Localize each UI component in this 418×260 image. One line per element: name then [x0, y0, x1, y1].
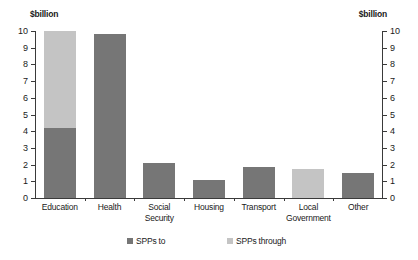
right-axis-tick-label: 0 [390, 194, 410, 203]
left-axis-tick-label: 1 [8, 177, 28, 186]
bars-layer [35, 31, 383, 198]
right-axis-tick [383, 198, 387, 199]
bar-group [94, 34, 126, 198]
bar-group [342, 173, 374, 198]
left-axis-tick-label: 5 [8, 111, 28, 120]
x-axis-tick [134, 198, 135, 201]
right-axis-tick-label: 4 [390, 127, 410, 136]
left-axis-tick-label: 8 [8, 60, 28, 69]
legend-label: SPPs through [236, 236, 286, 246]
right-axis-tick [383, 98, 387, 99]
bar-segment [342, 173, 374, 198]
category-label: Housing [184, 202, 234, 213]
right-axis-tick-label: 9 [390, 44, 410, 53]
left-axis-tick-label: 0 [8, 194, 28, 203]
category-label: Health [85, 202, 135, 213]
left-axis-tick-label: 9 [8, 44, 28, 53]
right-axis-tick [383, 148, 387, 149]
right-axis-tick-label: 6 [390, 94, 410, 103]
right-axis-tick [383, 115, 387, 116]
legend-label: SPPs to [136, 236, 165, 246]
right-axis-unit-label: $billion [359, 9, 387, 19]
right-axis-tick [383, 131, 387, 132]
bar-group [193, 180, 225, 198]
right-axis-tick-label: 1 [390, 177, 410, 186]
bar-chart: $billion $billion 1010998877665544332211… [0, 0, 418, 260]
x-axis-baseline [35, 198, 383, 199]
category-label: Transport [234, 202, 284, 213]
bar-segment [193, 180, 225, 198]
bar-group [243, 167, 275, 198]
right-axis-tick [383, 31, 387, 32]
right-axis-tick-label: 2 [390, 161, 410, 170]
left-axis-tick-label: 4 [8, 127, 28, 136]
right-axis-tick-label: 3 [390, 144, 410, 153]
legend-item-spps-to: SPPs to [127, 236, 165, 246]
bar-segment [44, 31, 76, 128]
left-axis-tick-label: 10 [8, 27, 28, 36]
x-axis-tick [333, 198, 334, 201]
right-axis-tick [383, 81, 387, 82]
category-label: Social Security [134, 202, 184, 223]
left-axis-tick-label: 6 [8, 94, 28, 103]
bar-segment [292, 169, 324, 198]
left-axis-tick-label: 7 [8, 77, 28, 86]
right-axis-tick-label: 7 [390, 77, 410, 86]
bar-group [143, 163, 175, 198]
right-axis-tick-label: 5 [390, 111, 410, 120]
bar-segment [143, 163, 175, 198]
left-axis-tick-label: 3 [8, 144, 28, 153]
bar-segment [44, 128, 76, 198]
left-axis-tick [31, 198, 35, 199]
right-axis-tick [383, 181, 387, 182]
left-axis-unit-label: $billion [30, 9, 58, 19]
bar-group [292, 169, 324, 198]
bar-segment [94, 34, 126, 198]
category-label: Local Government [284, 202, 334, 223]
x-axis-tick [284, 198, 285, 201]
x-axis-tick [184, 198, 185, 201]
right-axis-tick-label: 10 [390, 27, 410, 36]
right-axis-tick [383, 64, 387, 65]
right-axis-tick-label: 8 [390, 60, 410, 69]
category-label: Other [333, 202, 383, 213]
legend-item-spps-through: SPPs through [227, 236, 286, 246]
category-label: Education [35, 202, 85, 213]
legend-swatch-icon [227, 238, 233, 244]
x-axis-tick [85, 198, 86, 201]
chart-legend: SPPs to SPPs through [0, 236, 418, 250]
right-axis-tick [383, 48, 387, 49]
bar-segment [243, 167, 275, 198]
left-axis-tick-label: 2 [8, 161, 28, 170]
bar-group [44, 31, 76, 198]
right-axis-tick [383, 165, 387, 166]
x-axis-tick [234, 198, 235, 201]
legend-swatch-icon [127, 238, 133, 244]
